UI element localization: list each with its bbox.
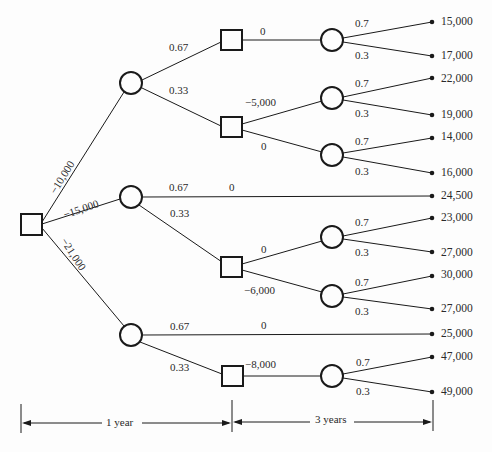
chance-node-b bbox=[120, 186, 142, 208]
payoff: 30,000 bbox=[441, 269, 473, 281]
tree-lines bbox=[0, 0, 492, 452]
payoff: 19,000 bbox=[441, 109, 473, 121]
payoff: 16,000 bbox=[441, 167, 473, 179]
payoff: 25,000 bbox=[441, 328, 473, 340]
decision-node-c2 bbox=[222, 366, 243, 386]
prob-high: 0.7 bbox=[355, 136, 369, 147]
payoff: 47,000 bbox=[441, 351, 473, 363]
decision-label-c2: −8,000 bbox=[245, 359, 276, 370]
payoff: 27,000 bbox=[441, 247, 473, 259]
chance-node-c bbox=[120, 324, 142, 346]
decision-label-b2-up: 0 bbox=[261, 244, 267, 255]
prob-low: 0.3 bbox=[355, 247, 369, 258]
decision-node-b2 bbox=[221, 257, 242, 277]
payoff: 14,000 bbox=[441, 131, 473, 143]
decision-tree-diagram: −10,000 −15,000 −21,000 0.67 0.33 0.67 0… bbox=[0, 0, 492, 452]
payoff: 27,000 bbox=[441, 303, 473, 315]
decision-node-a1 bbox=[221, 30, 242, 50]
decision-label-b2-down: −6,000 bbox=[244, 285, 275, 296]
prob-low: 0.3 bbox=[356, 386, 370, 397]
prob-high: 0.7 bbox=[355, 78, 369, 89]
prob-b-high: 0.67 bbox=[169, 182, 188, 193]
payoff: 15,000 bbox=[441, 16, 473, 28]
prob-high: 0.7 bbox=[355, 217, 369, 228]
prob-high: 0.7 bbox=[355, 18, 369, 29]
payoff: 17,000 bbox=[441, 50, 473, 62]
root-decision-node bbox=[21, 214, 42, 235]
payoff: 23,000 bbox=[441, 212, 473, 224]
timeline-label-3-years: 3 years bbox=[315, 414, 346, 425]
prob-b-low: 0.33 bbox=[170, 208, 189, 219]
prob-c-high: 0.67 bbox=[170, 321, 189, 332]
decision-node-a2 bbox=[221, 117, 242, 137]
prob-low: 0.3 bbox=[355, 166, 369, 177]
prob-low: 0.3 bbox=[355, 108, 369, 119]
prob-a-high: 0.67 bbox=[169, 42, 188, 53]
decision-label-a1: 0 bbox=[260, 26, 266, 37]
prob-low: 0.3 bbox=[355, 306, 369, 317]
payoff: 24,500 bbox=[441, 190, 473, 202]
prob-c-low: 0.33 bbox=[170, 362, 189, 373]
decision-label-a2-up: −5,000 bbox=[245, 97, 276, 108]
decision-label-b-straight: 0 bbox=[229, 182, 235, 193]
payoff: 22,000 bbox=[441, 73, 473, 85]
prob-high: 0.7 bbox=[355, 277, 369, 288]
payoff: 49,000 bbox=[441, 386, 473, 398]
timeline-label-1-year: 1 year bbox=[106, 417, 133, 428]
decision-label-c-straight: 0 bbox=[261, 320, 267, 331]
prob-high: 0.7 bbox=[356, 357, 370, 368]
prob-low: 0.3 bbox=[355, 50, 369, 61]
prob-a-low: 0.33 bbox=[169, 85, 188, 96]
chance-node-a bbox=[120, 72, 142, 94]
decision-label-a2-down: 0 bbox=[261, 141, 267, 152]
